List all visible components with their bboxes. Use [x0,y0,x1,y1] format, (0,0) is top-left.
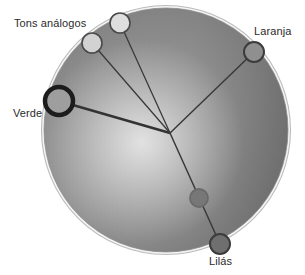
color-wheel-canvas [0,0,305,275]
label-laranja: Laranja [254,25,291,38]
node-tom-analogo-1[interactable] [82,33,102,53]
node-verde[interactable] [45,87,73,115]
node-lilas[interactable] [210,234,230,254]
node-tom-analogo-2[interactable] [110,13,130,33]
label-lilas: Lilás [209,255,232,268]
node-laranja[interactable] [244,42,264,62]
node-intermediario[interactable] [190,189,208,207]
label-tons-analogos: Tons análogos [14,17,86,30]
label-verde: Verde [13,107,42,120]
color-wheel-figure: Tons análogos Laranja Verde Lilás [0,0,305,275]
